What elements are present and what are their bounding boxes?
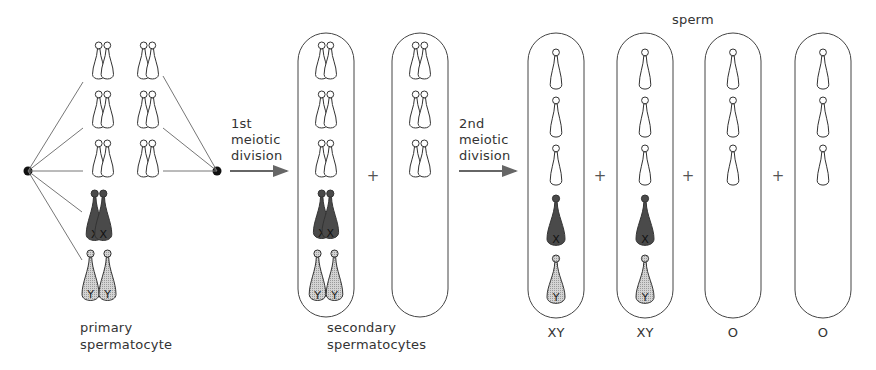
- autosome-pair-right-2-right: [146, 91, 158, 128]
- sperm-label: sperm: [672, 12, 714, 28]
- second-division-label-line3: division: [459, 148, 510, 164]
- sperm-autosome: [550, 97, 562, 137]
- sperm-genotype-1: XY: [547, 325, 564, 341]
- secondary-autosome-pair-right: [418, 91, 430, 128]
- primary-label-line1: primary: [80, 320, 132, 336]
- svg-text:X: X: [552, 233, 560, 246]
- spindle-fiber: [163, 128, 217, 171]
- sperm-autosome: [639, 145, 651, 185]
- svg-text:Y: Y: [86, 288, 94, 301]
- spindle-lines: [24, 76, 222, 260]
- svg-text:Y: Y: [103, 288, 111, 301]
- plus-sign: +: [682, 167, 695, 185]
- autosome-pair-left-3-right: [101, 140, 113, 177]
- spindle-fiber: [28, 128, 83, 171]
- secondary-label-line2: spermatocytes: [327, 337, 426, 353]
- sperm-autosome: [817, 145, 829, 185]
- svg-text:Y: Y: [552, 291, 560, 304]
- svg-text:Y: Y: [313, 289, 321, 302]
- svg-text:Y: Y: [641, 291, 649, 304]
- secondary-y-left: Y: [309, 250, 326, 302]
- secondary-autosome-pair-right: [324, 91, 336, 128]
- sperm-genotype-4: O: [818, 325, 828, 341]
- chromosomes: XXYYXXYYXYXY: [82, 42, 829, 304]
- svg-text:Y: Y: [330, 289, 338, 302]
- plus-sign: +: [772, 167, 785, 185]
- meiosis-diagram: XXYYXXYYXYXY: [0, 0, 876, 370]
- plus-sign: +: [594, 167, 607, 185]
- spindle-fiber: [28, 82, 83, 171]
- sperm-autosome: [817, 49, 829, 89]
- spindle-fiber: [28, 171, 82, 260]
- autosome-pair-right-3-right: [146, 140, 158, 177]
- second-division-label-line1: 2nd: [459, 116, 484, 132]
- y-chromosome-right: Y: [99, 250, 116, 301]
- primary-label-line2: spermatocyte: [80, 337, 172, 353]
- autosome-pair-right-1-right: [146, 42, 158, 79]
- secondary-label-line1: secondary: [327, 320, 396, 336]
- spindle-fiber: [28, 171, 82, 212]
- sperm-autosome: [727, 97, 739, 137]
- sperm-autosome: [639, 49, 651, 89]
- plus-sign: +: [367, 167, 380, 185]
- first-division-label-line1: 1st: [231, 116, 252, 132]
- sperm-y-chromatid: Y: [547, 255, 565, 304]
- secondary-autosome-pair-right: [324, 140, 336, 177]
- sperm-autosome: [727, 49, 739, 89]
- sperm-genotype-3: O: [728, 325, 738, 341]
- sperm-x-chromatid: X: [636, 195, 654, 246]
- sperm-x-chromatid: X: [547, 195, 565, 246]
- cell-capsules: [298, 33, 851, 318]
- spindle-fiber: [163, 76, 217, 171]
- first-division-label-line2: meiotic: [231, 132, 280, 148]
- first-division-label-line3: division: [231, 148, 282, 164]
- y-chromosome-left: Y: [82, 250, 99, 301]
- sperm-autosome: [550, 49, 562, 89]
- second-division-label-line2: meiotic: [459, 132, 508, 148]
- secondary-autosome-pair-right: [324, 42, 336, 79]
- secondary-autosome-pair-right: [418, 140, 430, 177]
- secondary-autosome-pair-right: [418, 42, 430, 79]
- sperm-autosome: [639, 97, 651, 137]
- sperm-genotype-2: XY: [636, 325, 653, 341]
- sperm-autosome: [727, 145, 739, 185]
- secondary-y-right: Y: [326, 250, 343, 302]
- sperm-autosome: [817, 97, 829, 137]
- autosome-pair-left-1-right: [101, 42, 113, 79]
- svg-text:X: X: [100, 228, 108, 241]
- sperm-y-chromatid: Y: [636, 255, 654, 304]
- autosome-pair-left-2-right: [101, 91, 113, 128]
- svg-text:X: X: [327, 227, 335, 240]
- svg-text:X: X: [641, 233, 649, 246]
- sperm-autosome: [550, 145, 562, 185]
